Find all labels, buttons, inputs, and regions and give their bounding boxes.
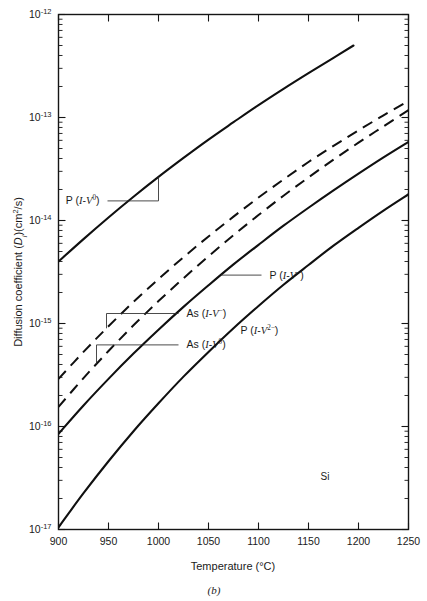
svg-text:Diffusion coefficient (Di)(cm2: Diffusion coefficient (Di)(cm2/s)	[11, 197, 29, 347]
plot-frame	[59, 15, 409, 530]
y-tick-label: 10-15	[29, 316, 52, 330]
figure-container: 10-1710-1610-1510-1410-1310-12 900950100…	[0, 0, 427, 601]
material-annotation: Si	[321, 471, 330, 482]
x-tick-label: 900	[50, 535, 68, 547]
x-axis-title: Temperature (°C)	[191, 560, 275, 572]
figure-caption: (b)	[208, 584, 221, 597]
curve-solid	[59, 194, 409, 527]
x-tick-label: 950	[100, 535, 118, 547]
curve-solid	[59, 46, 354, 262]
x-axis-tick-labels: 900950100010501100115012001250	[50, 535, 421, 547]
diffusion-coefficient-chart: 10-1710-1610-1510-1410-1310-12 900950100…	[0, 0, 427, 601]
data-curves	[59, 46, 409, 528]
y-axis-title: Diffusion coefficient (Di)(cm2/s)	[11, 197, 29, 347]
curve-solid	[59, 142, 409, 434]
x-tick-label: 1100	[247, 535, 270, 547]
y-tick-label: 10-17	[29, 522, 52, 536]
axis-ticks	[59, 15, 409, 530]
y-tick-label: 10-14	[29, 213, 52, 227]
x-tick-label: 1000	[147, 535, 171, 547]
x-tick-label: 1050	[197, 535, 221, 547]
x-tick-label: 1250	[397, 535, 421, 547]
leader-line	[97, 345, 179, 364]
curve-dashed	[59, 101, 409, 379]
label-leader-lines	[97, 177, 262, 364]
leader-line	[222, 274, 262, 275]
x-tick-label: 1150	[297, 535, 320, 547]
series-label: As (I-V0)	[187, 338, 226, 350]
curve-dashed	[59, 110, 409, 407]
y-tick-label: 10-12	[29, 7, 52, 21]
series-label: P (I-V0)	[66, 194, 100, 206]
y-tick-label: 10-16	[29, 419, 52, 433]
series-label: P (I-V−)	[270, 269, 304, 281]
y-axis-tick-labels: 10-1710-1610-1510-1410-1310-12	[29, 7, 52, 536]
series-label: P (I-V2−)	[241, 324, 279, 336]
series-label: As (I-V−)	[187, 307, 227, 319]
series-labels: P (I-V0)P (I-V−)P (I-V2−)As (I-V−)As (I-…	[66, 194, 304, 350]
x-tick-label: 1200	[347, 535, 371, 547]
y-tick-label: 10-13	[29, 110, 52, 124]
